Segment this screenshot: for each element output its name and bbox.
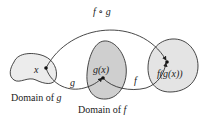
label-domain-g-prefix: Domain of [11, 92, 57, 103]
point-x [44, 66, 48, 70]
composition-diagram: x g(x) f(g(x)) f ∘ g g f Domain of g Dom… [0, 0, 206, 121]
label-domain-f-prefix: Domain of [78, 104, 124, 115]
diagram-canvas: x g(x) f(g(x)) f ∘ g g f Domain of g Dom… [0, 0, 206, 121]
label-x: x [33, 64, 39, 75]
label-domain-f: Domain of f [78, 104, 128, 115]
label-domain-g: Domain of g [11, 92, 62, 103]
point-gx [101, 76, 105, 80]
label-fgx: f(g(x)) [157, 68, 183, 80]
label-gx: g(x) [93, 64, 110, 76]
label-arrow-f: f [134, 75, 138, 86]
label-arrow-fog: f ∘ g [93, 6, 111, 17]
label-domain-g-var: g [57, 92, 62, 103]
label-arrow-g: g [70, 77, 75, 88]
point-fgx [165, 60, 169, 64]
label-domain-f-var: f [124, 104, 128, 115]
